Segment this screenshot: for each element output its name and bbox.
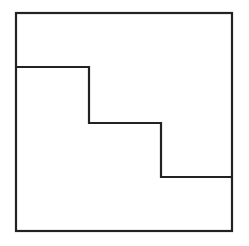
staircase-line <box>16 67 232 177</box>
staircase-diagram <box>0 0 249 246</box>
